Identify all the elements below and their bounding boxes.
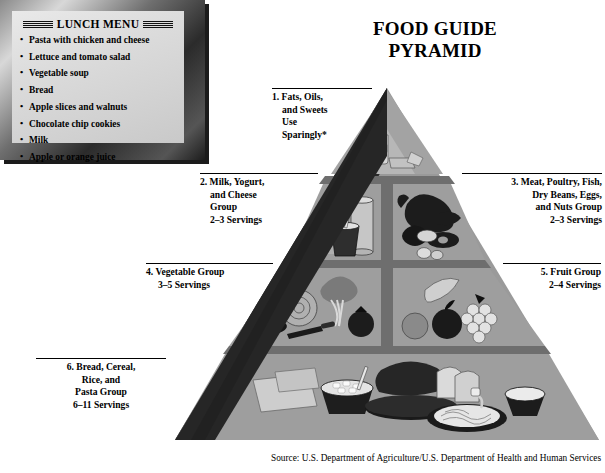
list-item: Lettuce and tomato salad [20, 53, 176, 62]
lunch-menu-title: LUNCH MENU [57, 18, 140, 30]
menu-rule-left-icon [23, 21, 53, 28]
callout-line: and Nuts Group [462, 201, 602, 214]
callout-line: Sparingly* [272, 129, 372, 142]
callout-rule [462, 173, 602, 174]
callout-rule [272, 88, 372, 89]
source-credit: Source: U.S. Department of Agriculture/U… [0, 453, 601, 464]
callout-line: 6. Bread, Cereal, [36, 361, 166, 374]
lunch-menu-panel: LUNCH MENU Pasta with chicken and cheese… [12, 11, 184, 143]
lunch-menu-title-row: LUNCH MENU [20, 18, 176, 30]
orange-icon [402, 313, 428, 339]
list-item: Bread [20, 86, 176, 95]
page-title: FOOD GUIDE PYRAMID [310, 18, 560, 63]
callout-line: 2–4 Servings [503, 279, 601, 292]
callout-rule [200, 173, 318, 174]
callout-line: Pasta Group [36, 386, 166, 399]
callout-line: Use [272, 116, 372, 129]
callout-fruit-group: 5. Fruit Group 2–4 Servings [503, 263, 601, 291]
callout-line: 2. Milk, Yogurt, [200, 176, 318, 189]
list-item: Apple or orange juice [20, 153, 176, 162]
bread-slices-icon [437, 367, 479, 402]
callout-fats-oils-sweets: 1. Fats, Oils, and Sweets Use Sparingly* [272, 88, 372, 142]
list-item: Apple slices and walnuts [20, 103, 176, 112]
callout-vegetable-group: 4. Vegetable Group 3–5 Servings [146, 263, 273, 291]
lunch-menu-list: Pasta with chicken and cheese Lettuce an… [20, 36, 176, 162]
food-guide-pyramid-page: LUNCH MENU Pasta with chicken and cheese… [0, 0, 605, 473]
callout-line: 2–3 Servings [200, 214, 318, 227]
callout-line: Dry Beans, Eggs, [462, 189, 602, 202]
callout-line: 1. Fats, Oils, [272, 91, 372, 104]
callout-line: 2–3 Servings [462, 214, 602, 227]
list-item: Milk [20, 136, 176, 145]
callout-meat-poultry-fish: 3. Meat, Poultry, Fish, Dry Beans, Eggs,… [462, 173, 602, 227]
list-item: Chocolate chip cookies [20, 120, 176, 129]
callout-line: Group [200, 201, 318, 214]
callout-line: 3. Meat, Poultry, Fish, [462, 176, 602, 189]
page-title-line2: PYRAMID [310, 40, 560, 62]
callout-line: Rice, and [36, 374, 166, 387]
divider-tier3-vertical [381, 268, 393, 346]
callout-rule [503, 263, 601, 264]
page-title-line1: FOOD GUIDE [310, 18, 560, 40]
divider-tier3 [223, 346, 551, 354]
callout-line: and Sweets [272, 104, 372, 117]
callout-line: 6–11 Servings [36, 399, 166, 412]
divider-tier2-vertical [381, 184, 393, 260]
callout-rule [36, 358, 166, 359]
list-item: Pasta with chicken and cheese [20, 36, 176, 45]
menu-rule-right-icon [143, 21, 173, 28]
callout-bread-cereal-rice-pasta: 6. Bread, Cereal, Rice, and Pasta Group … [36, 358, 166, 412]
callout-rule [146, 263, 273, 264]
callout-line: 4. Vegetable Group [146, 266, 273, 279]
callout-line: 3–5 Servings [146, 279, 273, 292]
callout-line: 5. Fruit Group [503, 266, 601, 279]
callout-line: and Cheese [200, 189, 318, 202]
callout-milk-yogurt-cheese: 2. Milk, Yogurt, and Cheese Group 2–3 Se… [200, 173, 318, 227]
list-item: Vegetable soup [20, 69, 176, 78]
